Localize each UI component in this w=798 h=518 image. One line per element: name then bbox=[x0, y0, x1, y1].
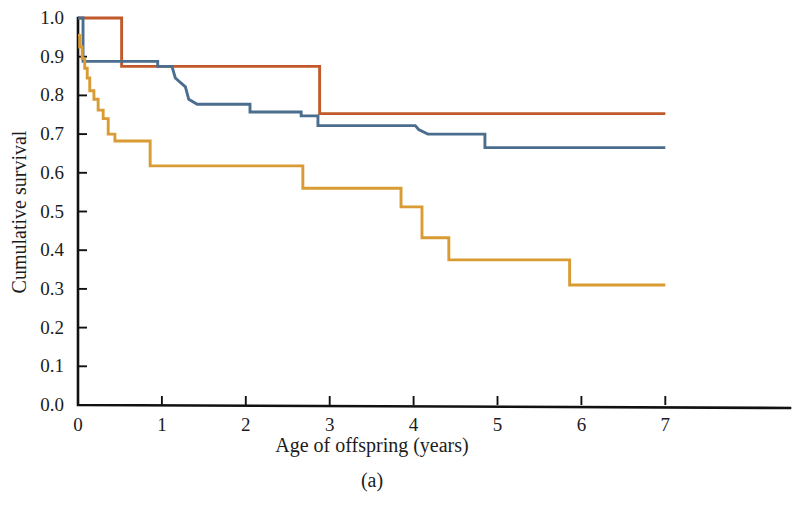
y-tick-label-9: 0.9 bbox=[40, 46, 64, 67]
y-axis-title: Cumulative survival bbox=[8, 130, 30, 293]
series-yellow bbox=[78, 35, 665, 285]
x-tick-label-1: 1 bbox=[157, 414, 167, 435]
axis-lines bbox=[78, 18, 790, 408]
y-tick-label-4: 0.4 bbox=[40, 239, 64, 260]
kaplan-meier-plot: 0.00.10.20.30.40.50.60.70.80.91.0 012345… bbox=[0, 0, 798, 518]
y-tick-label-6: 0.6 bbox=[40, 162, 64, 183]
y-tick-label-8: 0.8 bbox=[40, 84, 64, 105]
panel-label: (a) bbox=[361, 469, 383, 492]
x-tick-label-2: 2 bbox=[241, 414, 251, 435]
x-tick-label-6: 6 bbox=[577, 414, 587, 435]
series-blue bbox=[78, 18, 665, 148]
y-tick-label-2: 0.2 bbox=[40, 317, 64, 338]
x-tick-label-4: 4 bbox=[409, 414, 419, 435]
y-tick-label-7: 0.7 bbox=[40, 123, 64, 144]
x-tick-label-0: 0 bbox=[73, 414, 83, 435]
x-axis-title: Age of offspring (years) bbox=[275, 434, 468, 457]
y-tick-label-0: 0.0 bbox=[40, 394, 64, 415]
tick-marks bbox=[78, 18, 665, 405]
y-tick-label-3: 0.3 bbox=[40, 278, 64, 299]
y-tick-label-10: 1.0 bbox=[40, 7, 64, 28]
data-series-group bbox=[78, 18, 665, 285]
figure-container: 0.00.10.20.30.40.50.60.70.80.91.0 012345… bbox=[0, 0, 798, 518]
x-tick-label-5: 5 bbox=[493, 414, 503, 435]
x-tick-label-3: 3 bbox=[325, 414, 335, 435]
x-tick-labels: 01234567 bbox=[73, 414, 670, 435]
plot-axis-frame bbox=[78, 18, 790, 408]
y-tick-label-5: 0.5 bbox=[40, 201, 64, 222]
x-tick-label-7: 7 bbox=[661, 414, 671, 435]
y-tick-label-1: 0.1 bbox=[40, 355, 64, 376]
y-tick-labels: 0.00.10.20.30.40.50.60.70.80.91.0 bbox=[40, 7, 64, 415]
